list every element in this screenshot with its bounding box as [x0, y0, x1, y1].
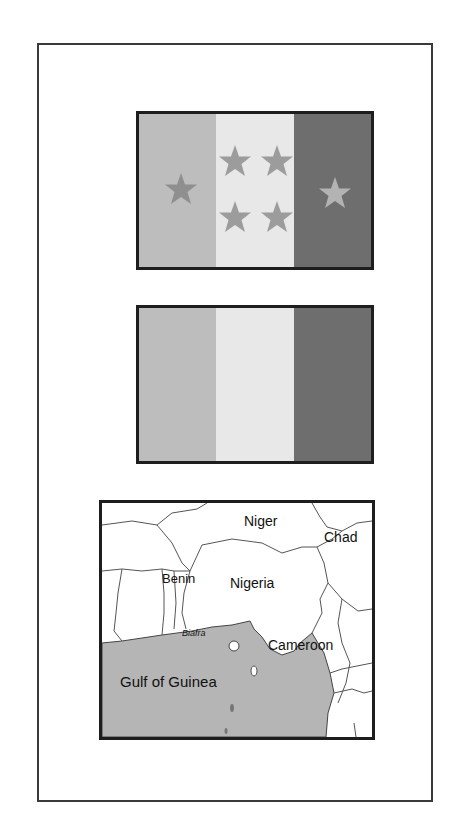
- star-icon-group: [139, 114, 371, 267]
- map-label-chad: Chad: [324, 529, 357, 545]
- star-icon: [319, 177, 351, 208]
- flag-stripe-left: [139, 308, 216, 461]
- map-label-nigeria: Nigeria: [230, 575, 274, 591]
- star-icon: [219, 201, 251, 232]
- map-label-niger: Niger: [244, 513, 277, 529]
- star-icon: [261, 201, 293, 232]
- star-icon: [165, 173, 197, 204]
- map-label-benin: Benin: [162, 571, 195, 586]
- flag-with-stars: [136, 111, 374, 270]
- map-label-gulf-of-guinea: Gulf of Guinea: [120, 673, 217, 690]
- map-label-biafra: Biafra: [182, 628, 206, 638]
- flag-plain: [136, 305, 374, 464]
- flag-stripe-right: [294, 308, 371, 461]
- map-label-cameroon: Cameroon: [268, 637, 333, 653]
- star-icon: [261, 145, 293, 176]
- star-icon: [219, 145, 251, 176]
- flag-stripe-center: [216, 308, 293, 461]
- region-map: Niger Chad Benin Nigeria Biafra Cameroon…: [99, 500, 375, 740]
